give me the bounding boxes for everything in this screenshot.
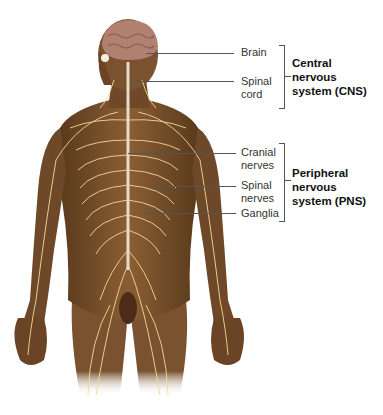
spinal-cord-leader-line bbox=[136, 81, 234, 82]
pns-line2: nervous bbox=[292, 180, 366, 194]
label-brain: Brain bbox=[241, 46, 267, 59]
cns-line1: Central bbox=[292, 56, 367, 70]
pns-line3: system (PNS) bbox=[292, 194, 366, 208]
cns-bracket bbox=[279, 45, 285, 109]
eye bbox=[101, 54, 109, 62]
label-spinal-cord: Spinal cord bbox=[241, 75, 272, 101]
cns-bracket-tick bbox=[285, 76, 291, 77]
genitals bbox=[119, 292, 137, 324]
cns-line3: system (CNS) bbox=[292, 84, 367, 98]
pns-line1: Peripheral bbox=[292, 166, 366, 180]
label-spinal-nerves: Spinal nerves bbox=[241, 179, 274, 205]
ganglia-leader-line bbox=[145, 213, 236, 214]
label-cranial-nerves: Cranial nerves bbox=[241, 146, 276, 172]
pns-bracket-tick bbox=[285, 180, 291, 181]
label-cranial-nerves-line1: Cranial bbox=[241, 146, 276, 159]
left-hand bbox=[14, 318, 47, 365]
label-spinal-cord-line1: Spinal bbox=[241, 75, 272, 88]
cns-group-label: Central nervous system (CNS) bbox=[292, 56, 367, 98]
spinal-nerves-leader-line bbox=[150, 186, 236, 187]
label-cranial-nerves-line2: nerves bbox=[241, 159, 276, 172]
cns-line2: nervous bbox=[292, 70, 367, 84]
label-spinal-nerves-line1: Spinal bbox=[241, 179, 274, 192]
cranial-nerves-leader-line bbox=[128, 153, 236, 154]
right-hand bbox=[211, 318, 244, 365]
pns-bracket bbox=[279, 143, 285, 222]
nervous-system-figure: Brain Spinal cord Cranial nerves Spinal … bbox=[0, 0, 383, 415]
brain-leader-line bbox=[146, 53, 234, 54]
pns-group-label: Peripheral nervous system (PNS) bbox=[292, 166, 366, 208]
left-arm bbox=[20, 128, 66, 335]
label-spinal-nerves-line2: nerves bbox=[241, 192, 274, 205]
label-spinal-cord-line2: cord bbox=[241, 88, 272, 101]
label-ganglia: Ganglia bbox=[241, 207, 279, 220]
